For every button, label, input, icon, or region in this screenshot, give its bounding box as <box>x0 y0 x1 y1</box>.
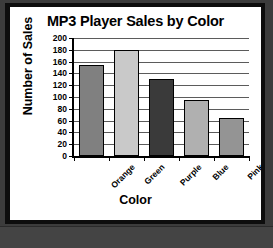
chart-card: MP3 Player Sales by Color Number of Sale… <box>10 7 261 220</box>
x-axis-label-green: Green <box>142 162 166 186</box>
x-axis-label-blue: Blue <box>211 162 231 182</box>
bar-purple[interactable] <box>149 79 173 156</box>
x-axis-tick <box>144 156 145 161</box>
bar-slot <box>75 38 109 156</box>
y-axis-tick-label: 100 <box>53 92 67 102</box>
bar-green[interactable] <box>114 50 138 156</box>
x-axis-tick <box>249 156 250 161</box>
y-axis-tick-label: 20 <box>58 139 67 149</box>
y-axis-tick-label: 180 <box>53 45 67 55</box>
x-axis-label-purple: Purple <box>178 162 204 188</box>
y-axis-tick-label: 140 <box>53 68 67 78</box>
x-axis-label-pink: Pink <box>246 162 261 182</box>
plot-area: 020406080100120140160180200 OrangeGreenP… <box>72 38 249 158</box>
bar-slot <box>215 38 249 156</box>
y-axis-tick-label: 40 <box>58 127 67 137</box>
bar-slot <box>110 38 144 156</box>
x-axis-label-orange: Orange <box>109 162 137 190</box>
x-axis-tick <box>179 156 180 161</box>
y-axis-tick-label: 120 <box>53 80 67 90</box>
bar-orange[interactable] <box>79 65 103 156</box>
y-axis-tick-label: 60 <box>58 116 67 126</box>
bar-slot <box>145 38 179 156</box>
chart-frame: MP3 Player Sales by Color Number of Sale… <box>5 3 265 224</box>
bar-slot <box>180 38 214 156</box>
x-axis-tick <box>109 156 110 161</box>
y-axis-tick-label: 200 <box>53 33 67 43</box>
x-axis-title: Color <box>10 193 261 207</box>
x-axis-tick <box>74 156 75 161</box>
y-axis-tick-label: 80 <box>58 104 67 114</box>
x-axis-tick <box>214 156 215 161</box>
bar-blue[interactable] <box>184 100 208 156</box>
chart-title: MP3 Player Sales by Color <box>10 13 261 29</box>
y-axis-tick-label: 160 <box>53 57 67 67</box>
bottom-band <box>0 226 273 248</box>
bar-series <box>74 38 249 156</box>
bar-pink[interactable] <box>219 118 243 156</box>
plot-frame: 020406080100120140160180200 OrangeGreenP… <box>72 38 249 158</box>
y-axis-tick-label: 0 <box>62 151 67 161</box>
y-axis-title: Number of Sales <box>21 7 35 131</box>
